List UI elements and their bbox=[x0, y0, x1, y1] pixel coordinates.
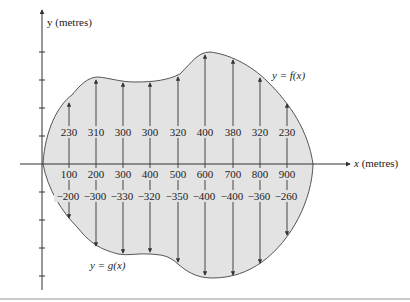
top-value: 300 bbox=[115, 126, 132, 138]
bottom-value: −360 bbox=[248, 190, 271, 202]
x-tick-label: 200 bbox=[88, 168, 105, 180]
x-tick-label: 500 bbox=[170, 168, 187, 180]
bottom-value: −350 bbox=[166, 190, 189, 202]
x-tick-label: 600 bbox=[197, 168, 214, 180]
bottom-value: −260 bbox=[275, 190, 298, 202]
top-value: 380 bbox=[225, 126, 242, 138]
top-value: 300 bbox=[142, 126, 159, 138]
bottom-value: −400 bbox=[193, 190, 216, 202]
x-tick-label: 100 bbox=[61, 168, 78, 180]
upper-curve-label: y = f(x) bbox=[271, 69, 305, 82]
x-tick-label: 400 bbox=[142, 168, 159, 180]
top-value: 230 bbox=[279, 126, 296, 138]
x-axis-label: x (metres) bbox=[353, 157, 399, 170]
bottom-value: −300 bbox=[84, 190, 107, 202]
top-value: 320 bbox=[170, 126, 187, 138]
x-tick-label: 800 bbox=[252, 168, 269, 180]
y-axis-label: y (metres) bbox=[47, 16, 92, 29]
bottom-value: −320 bbox=[138, 190, 161, 202]
top-value: 320 bbox=[252, 126, 269, 138]
x-tick-label: 700 bbox=[225, 168, 242, 180]
top-value: 310 bbox=[88, 126, 105, 138]
x-tick-label: 900 bbox=[279, 168, 296, 180]
bottom-value: −400 bbox=[221, 190, 244, 202]
x-tick-label: 300 bbox=[115, 168, 132, 180]
bottom-value: −330 bbox=[111, 190, 134, 202]
area-diagram: 230 310 300 300 320 400 380 320 230 100 … bbox=[0, 0, 410, 302]
lower-curve-label: y = g(x) bbox=[89, 259, 126, 272]
top-value: 230 bbox=[61, 126, 78, 138]
bottom-divider bbox=[0, 298, 410, 300]
top-value: 400 bbox=[197, 126, 214, 138]
bottom-value: −200 bbox=[57, 190, 80, 202]
